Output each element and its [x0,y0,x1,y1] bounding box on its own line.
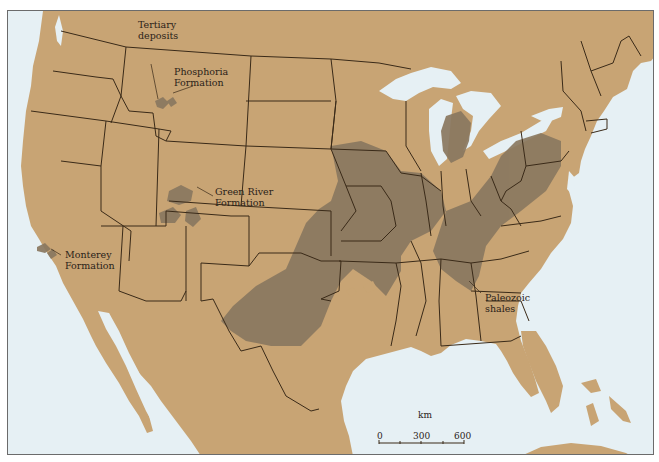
map-frame: Tertiary deposits Phosphoria Formation G… [7,10,654,455]
scale-bar [8,11,654,455]
